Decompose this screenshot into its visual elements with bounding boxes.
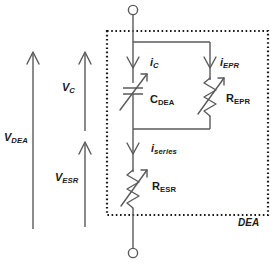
- top-terminal-node: [128, 5, 137, 14]
- repr-variable-arrow-shaft: [198, 78, 224, 114]
- bottom-terminal-node: [128, 248, 137, 257]
- resr-variable-arrow-shaft: [121, 170, 147, 206]
- label-r-esr: RESR: [152, 180, 176, 194]
- label-dea-enclosure: DEA: [238, 217, 259, 228]
- circuit-diagram: VDEA VC VESR iC iEPR iseries CDEA REPR R…: [0, 0, 278, 267]
- dea-enclosure-box: [107, 31, 268, 215]
- label-i-epr: iEPR: [220, 56, 239, 70]
- label-i-series: iseries: [151, 142, 177, 156]
- label-r-epr: REPR: [226, 92, 250, 106]
- label-v-dea: VDEA: [4, 131, 28, 145]
- label-v-esr: VESR: [55, 171, 78, 185]
- label-c-dea: CDEA: [150, 93, 174, 107]
- label-v-c: VC: [62, 81, 75, 95]
- circuit-schematic-canvas: [0, 0, 278, 267]
- label-i-c: iC: [150, 56, 159, 70]
